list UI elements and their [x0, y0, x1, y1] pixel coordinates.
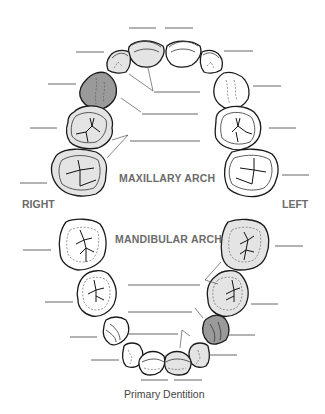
tooth-mand-right-second-molar [59, 219, 106, 270]
tooth-max-left-first-molar [215, 106, 261, 150]
tooth-max-left-lateral-incisor [200, 50, 222, 73]
tooth-max-left-second-molar [225, 149, 278, 196]
right-side-label: RIGHT [22, 198, 55, 210]
tooth-mand-left-second-molar [221, 219, 269, 270]
tooth-mand-right-first-molar [77, 271, 116, 317]
tooth-mand-left-lateral-incisor [189, 343, 209, 367]
mandibular-arch-label: MANDIBULAR ARCH [115, 233, 222, 245]
tooth-max-right-canine [80, 72, 117, 110]
tooth-max-right-lateral-incisor [107, 50, 130, 73]
tooth-max-right-second-molar [51, 149, 106, 196]
tooth-max-left-canine [214, 72, 249, 110]
tooth-mand-left-first-molar [207, 271, 248, 317]
left-side-label: LEFT [282, 198, 308, 210]
tooth-mand-left-canine [203, 315, 229, 344]
tooth-max-left-central-incisor [166, 41, 201, 67]
tooth-mand-right-canine [103, 317, 129, 345]
maxillary-arch-label: MAXILLARY ARCH [119, 172, 215, 184]
tooth-mand-left-central-incisor [165, 352, 191, 376]
tooth-max-right-first-molar [67, 106, 113, 149]
tooth-mand-right-central-incisor [139, 352, 165, 376]
diagram-caption: Primary Dentition [124, 388, 205, 400]
tooth-max-right-central-incisor [128, 41, 164, 67]
